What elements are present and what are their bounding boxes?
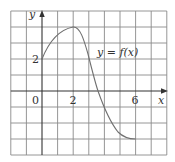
y-axis-label: y — [28, 8, 36, 21]
x-axis-label: x — [158, 94, 165, 107]
origin-label: 0 — [32, 94, 39, 107]
curve-label: y = f(x) — [96, 46, 138, 59]
function-graph: y x 2 0 2 6 y = f(x) — [0, 0, 175, 162]
x-tick-label-6: 6 — [132, 94, 139, 107]
grid-lines — [11, 11, 167, 155]
x-tick-label-2: 2 — [70, 94, 77, 107]
y-tick-label-2: 2 — [32, 53, 39, 66]
